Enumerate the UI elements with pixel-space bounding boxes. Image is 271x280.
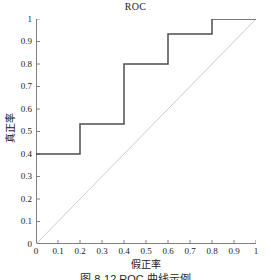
y-tick-label: 0.2 xyxy=(2,195,32,204)
y-tick-label: 0.1 xyxy=(2,217,32,226)
y-tick-label: 0.9 xyxy=(2,37,32,46)
x-tick-label: 1 xyxy=(241,247,271,256)
y-axis-title: 真正率 xyxy=(2,98,17,158)
y-tick-label: 0.3 xyxy=(2,172,32,181)
x-axis-title: 假正率 xyxy=(36,256,256,271)
y-tick-label: 0.8 xyxy=(2,60,32,69)
y-tick-label: 1 xyxy=(2,15,32,24)
chance-diagonal-line xyxy=(36,19,256,244)
figure-caption: 图 8-12 ROC 曲线示例 xyxy=(0,270,271,280)
plot-area xyxy=(36,19,256,244)
chart-title: ROC xyxy=(0,1,271,12)
plot-canvas xyxy=(36,19,256,244)
y-tick-label: 0.7 xyxy=(2,82,32,91)
roc-figure: ROC 00.10.20.30.40.50.60.70.80.91 00.10.… xyxy=(0,0,271,280)
roc-curve-line xyxy=(36,19,256,154)
